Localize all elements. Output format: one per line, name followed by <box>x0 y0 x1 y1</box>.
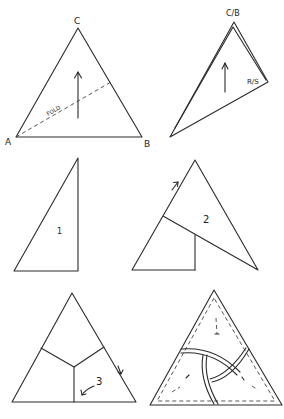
woven-strip-b-outer <box>212 349 249 382</box>
label-cb: C/B <box>226 9 240 18</box>
crease-top <box>216 318 217 334</box>
crease-right <box>252 386 258 390</box>
label-c: C <box>74 16 80 26</box>
crease-right-mark <box>242 377 244 380</box>
woven-strip-a-inner <box>181 353 237 375</box>
panel-step1: 1 <box>14 158 78 271</box>
label-rs: R/S <box>247 78 259 86</box>
arrow-down-left-icon <box>82 386 94 395</box>
step-label-1: 1 <box>57 227 62 236</box>
crease-left-mark <box>186 375 189 378</box>
folding-diagram: C A B FOLD C/B R/S 1 2 3 <box>0 0 284 419</box>
panel-start: C A B FOLD <box>5 16 150 149</box>
woven-strip-c-inner <box>206 355 218 404</box>
triangle-abc <box>16 28 142 137</box>
step-label-3: 3 <box>96 376 102 387</box>
panel-folded: C/B R/S <box>170 9 268 137</box>
step3-branch-top <box>41 347 104 367</box>
step-label-2: 2 <box>203 214 209 225</box>
panel-step2: 2 <box>132 160 258 270</box>
label-a: A <box>5 137 12 147</box>
panel-step3: 3 <box>12 293 136 402</box>
finished-dashed-border <box>157 298 275 401</box>
crease-left <box>172 387 180 392</box>
finished-outer-triangle <box>150 290 282 405</box>
right-triangle <box>14 158 78 271</box>
fold-line <box>16 82 111 137</box>
panel-finished <box>150 290 282 405</box>
label-b: B <box>144 139 150 149</box>
